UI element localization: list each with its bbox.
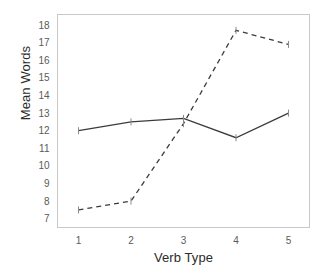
x-tick-label: 3: [181, 235, 187, 246]
y-tick-label: 15: [38, 72, 50, 83]
x-tick-label-group: 12345: [76, 235, 292, 246]
x-tick-label: 5: [286, 235, 292, 246]
y-tick-label-group: 789101112131415161718: [38, 20, 50, 225]
line-chart-figure: Mean Words 789101112131415161718 12345 V…: [0, 0, 329, 276]
x-tick-label: 4: [233, 235, 239, 246]
x-axis-title: Verb Type: [57, 250, 310, 265]
y-tick-label: 7: [44, 213, 50, 224]
y-tick-label: 13: [38, 108, 50, 119]
y-tick-label: 9: [44, 178, 50, 189]
x-tick-label: 1: [76, 235, 82, 246]
y-tick-label: 16: [38, 55, 50, 66]
y-tick-label: 11: [39, 143, 50, 154]
y-tick-label: 8: [44, 196, 50, 207]
y-tick-label: 17: [38, 37, 50, 48]
y-tick-label: 12: [38, 125, 50, 136]
x-tick-label: 2: [128, 235, 134, 246]
y-tick-label: 14: [38, 90, 50, 101]
y-tick-label: 10: [38, 160, 50, 171]
y-tick-label: 18: [38, 20, 50, 31]
plot-canvas: 789101112131415161718 12345: [0, 0, 329, 276]
